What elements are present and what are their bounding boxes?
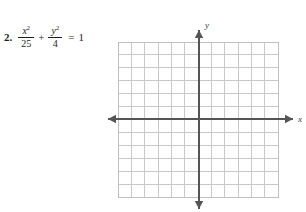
y-axis-label: y [204,20,209,30]
worksheet-page: 2. x2 25 + y2 4 = 1 y x [0,0,306,212]
fraction-denominator: 25 [18,38,34,49]
coordinate-graph: y x [108,8,306,212]
y-axis-arrow-down [195,201,203,209]
axes [108,30,293,209]
graph-svg: y x [108,8,306,212]
plus-operator: + [38,32,44,43]
fraction-denominator: 4 [50,38,61,49]
fraction-x-squared-over-25: x2 25 [18,26,34,49]
problem-statement: 2. x2 25 + y2 4 = 1 [4,26,84,49]
x-axis-arrow-left [108,115,116,123]
exponent-2: 2 [56,24,59,31]
problem-number: 2. [4,32,12,43]
equals-sign: = [68,32,74,43]
fraction-numerator: y2 [48,26,62,37]
exponent-2: 2 [27,24,30,31]
fraction-numerator: x2 [19,26,33,37]
fraction-y-squared-over-4: y2 4 [48,26,62,49]
y-axis-arrow-up [195,30,203,38]
x-axis-arrow-right [285,115,293,123]
x-axis-label: x [297,114,302,124]
right-hand-side-value: 1 [78,32,84,43]
